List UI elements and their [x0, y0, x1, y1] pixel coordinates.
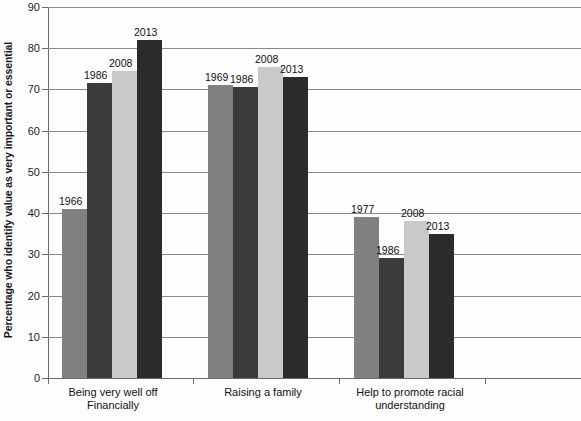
bar-group1-series0 — [208, 85, 233, 378]
bar-value-label-group1-series1: 1986 — [230, 73, 253, 85]
x-category-label-1: Raising a family — [183, 386, 343, 399]
x-category-line: Being very well off — [33, 386, 193, 399]
bar-value-label-group1-series0: 1969 — [205, 71, 228, 83]
bar-value-label-group2-series0: 1977 — [351, 203, 374, 215]
bar-value-label-group2-series3: 2013 — [426, 220, 449, 232]
x-category-line: Financially — [33, 399, 193, 412]
bar-group2-series0 — [354, 217, 379, 378]
plot-area: 1966198620082013196919862008201319771986… — [48, 7, 581, 378]
bar-value-label-group0-series1: 1986 — [84, 69, 107, 81]
x-category-line: understanding — [330, 399, 490, 412]
x-tick-mark-2 — [339, 378, 340, 384]
bar-group2-series2 — [404, 221, 429, 378]
y-tick-label-50: 50 — [0, 166, 40, 178]
bar-value-label-group1-series2: 2008 — [255, 53, 278, 65]
gridline-90 — [48, 7, 581, 8]
bar-group1-series2 — [258, 67, 283, 378]
bar-value-label-group1-series3: 2013 — [280, 63, 303, 75]
bar-group0-series0 — [62, 209, 87, 378]
y-tick-label-0: 0 — [0, 372, 40, 384]
x-category-label-2: Help to promote racialunderstanding — [330, 386, 490, 412]
y-tick-label-10: 10 — [0, 331, 40, 343]
bar-group0-series2 — [112, 71, 137, 378]
bar-value-label-group2-series1: 1986 — [376, 244, 399, 256]
bar-group2-series1 — [379, 258, 404, 378]
y-tick-label-80: 80 — [0, 42, 40, 54]
y-tick-label-30: 30 — [0, 248, 40, 260]
x-tick-mark-0 — [48, 378, 49, 384]
bar-group1-series3 — [283, 77, 308, 378]
bar-value-label-group0-series0: 1966 — [59, 195, 82, 207]
y-tick-label-70: 70 — [0, 83, 40, 95]
x-tick-mark-1 — [193, 378, 194, 384]
bar-group1-series1 — [233, 87, 258, 378]
x-category-line: Help to promote racial — [330, 386, 490, 399]
x-category-line: Raising a family — [183, 386, 343, 399]
y-tick-label-40: 40 — [0, 207, 40, 219]
bar-chart: Percentage who identify value as very im… — [0, 0, 581, 421]
gridline-0 — [48, 378, 581, 379]
y-tick-label-90: 90 — [0, 1, 40, 13]
bar-group2-series3 — [429, 234, 454, 378]
bar-group0-series1 — [87, 83, 112, 378]
y-tick-label-60: 60 — [0, 125, 40, 137]
x-category-label-0: Being very well offFinancially — [33, 386, 193, 412]
x-tick-mark-3 — [485, 378, 486, 384]
gridline-80 — [48, 48, 581, 49]
y-axis-title: Percentage who identify value as very im… — [0, 0, 16, 380]
bar-value-label-group0-series2: 2008 — [109, 57, 132, 69]
bar-group0-series3 — [137, 40, 162, 378]
y-tick-label-20: 20 — [0, 290, 40, 302]
bar-value-label-group2-series2: 2008 — [401, 207, 424, 219]
bar-value-label-group0-series3: 2013 — [134, 26, 157, 38]
